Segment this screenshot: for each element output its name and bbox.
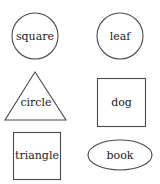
item-label: circle — [20, 96, 51, 109]
item-triangle-in-square: triangle — [14, 133, 61, 180]
item-square-in-circle: square — [12, 13, 58, 59]
item-dog-in-square: dog — [98, 79, 146, 127]
item-label: book — [107, 149, 134, 162]
item-circle-in-triangle: circle — [5, 72, 66, 120]
item-label: dog — [111, 96, 132, 109]
item-label: leaf — [110, 30, 132, 43]
item-label: square — [16, 30, 54, 43]
item-book-in-ellipse: book — [88, 140, 152, 170]
shapes-diagram: square leaf circle dog triangle book — [0, 0, 160, 184]
item-leaf-in-circle: leaf — [97, 13, 143, 59]
item-label: triangle — [15, 149, 59, 162]
